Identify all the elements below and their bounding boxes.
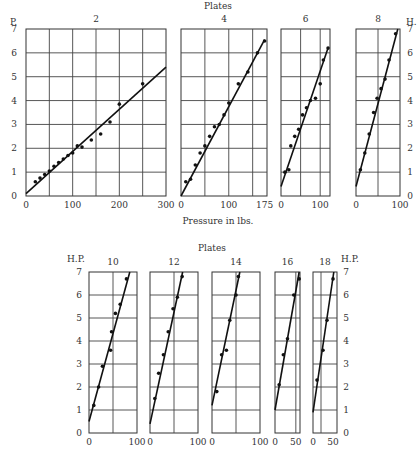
data-point [213, 125, 217, 129]
x-tick-label: 0 [353, 200, 359, 210]
data-point [99, 132, 103, 136]
panel-title: 16 [282, 257, 294, 267]
chart-panel-plate-16: 16050 [272, 257, 302, 447]
y-tick-label: 2 [343, 382, 349, 392]
data-point [157, 371, 161, 375]
data-point [394, 32, 398, 36]
data-point [57, 161, 61, 165]
data-point [109, 348, 113, 352]
data-point [184, 180, 188, 184]
data-point [297, 277, 301, 281]
data-point [97, 385, 101, 389]
panel-title: 10 [107, 257, 119, 267]
chart-panel-plate-6: 60100 [278, 14, 330, 210]
data-point [234, 293, 238, 297]
panel-title: 14 [230, 257, 242, 267]
data-point [293, 135, 297, 139]
chart-panel-plate-8: 80100 [353, 14, 409, 210]
x-tick-label: 175 [256, 200, 273, 210]
y-tick-label: 4 [76, 336, 82, 346]
x-tick-label: 200 [111, 200, 128, 210]
x-tick-label: 0 [23, 200, 29, 210]
data-point [48, 169, 52, 173]
data-point [198, 151, 202, 155]
data-point [225, 348, 229, 352]
x-tick-label: 0 [310, 437, 316, 447]
data-point [189, 178, 193, 182]
data-point [383, 77, 387, 81]
y-tick-label: 5 [76, 313, 82, 323]
x-tick-label: 100 [251, 437, 268, 447]
plot-frame [313, 272, 337, 433]
data-point [62, 157, 66, 161]
x-tick-label: 0 [147, 437, 153, 447]
y-tick-label: 6 [407, 48, 413, 58]
y-tick-label: 0 [11, 191, 17, 201]
data-point [375, 96, 379, 100]
y-tick-label: 6 [343, 290, 349, 300]
y-tick-label: 1 [11, 167, 17, 177]
data-point [322, 58, 326, 62]
x-tick-label: 100 [64, 200, 81, 210]
data-point [38, 176, 42, 180]
y-tick-label: 6 [11, 48, 17, 58]
bottom-title: Plates [198, 243, 226, 253]
y-tick-label: 4 [407, 96, 413, 106]
data-point [287, 168, 291, 172]
data-point [325, 319, 329, 323]
data-point [305, 106, 309, 110]
y-tick-label: 0 [407, 191, 413, 201]
x-tick-label: 100 [312, 200, 329, 210]
top-title: Plates [204, 1, 232, 11]
chart-panel-plate-14: 140100 [209, 257, 269, 447]
y-tick-label: 1 [76, 405, 82, 415]
y-tick-label: 5 [343, 313, 349, 323]
data-point [203, 144, 207, 148]
data-point [263, 39, 267, 43]
x-tick-label: 0 [272, 437, 278, 447]
y-tick-label: 5 [407, 72, 413, 82]
data-point [359, 168, 363, 172]
data-point [326, 46, 330, 50]
data-point [162, 353, 166, 357]
data-point [153, 397, 157, 401]
x-tick-label: 100 [391, 200, 408, 210]
data-point [331, 277, 335, 281]
y-tick-label: 3 [76, 359, 82, 369]
x-tick-label: 0 [86, 437, 92, 447]
data-point [277, 383, 281, 387]
data-point [314, 96, 318, 100]
chart-panel-plate-4: 40100175 [178, 14, 273, 210]
y-tick-label: 2 [76, 382, 82, 392]
y-tick-label: 7 [76, 267, 82, 277]
data-point [315, 378, 319, 382]
data-point [125, 277, 129, 281]
x-tick-label: 0 [278, 200, 284, 210]
chart-panel-plate-10: 100100 [86, 257, 146, 447]
plates-figure: Plates P. H. Pressure in lbs. Plates H.P… [0, 0, 418, 450]
data-point [118, 102, 122, 106]
data-point [171, 307, 175, 311]
data-point [286, 337, 290, 341]
x-tick-label: 0 [209, 437, 215, 447]
data-point [363, 151, 367, 155]
data-point [80, 145, 84, 149]
chart-panel-plate-12: 120100 [147, 257, 207, 447]
data-point [43, 173, 47, 177]
data-point [194, 163, 198, 167]
x-tick-label: 100 [189, 437, 206, 447]
fit-line [313, 272, 334, 412]
data-point [34, 180, 38, 184]
panel-title: 2 [93, 14, 99, 24]
data-point [101, 365, 105, 369]
data-point [220, 353, 224, 357]
data-point [217, 123, 221, 127]
y-tick-label: 3 [407, 119, 413, 129]
data-point [180, 275, 184, 279]
panel-title: 18 [319, 257, 331, 267]
data-point [318, 82, 322, 86]
y-tick-label: 6 [76, 290, 82, 300]
panel-title: 4 [221, 14, 227, 24]
data-point [208, 135, 212, 139]
data-point [66, 154, 70, 158]
